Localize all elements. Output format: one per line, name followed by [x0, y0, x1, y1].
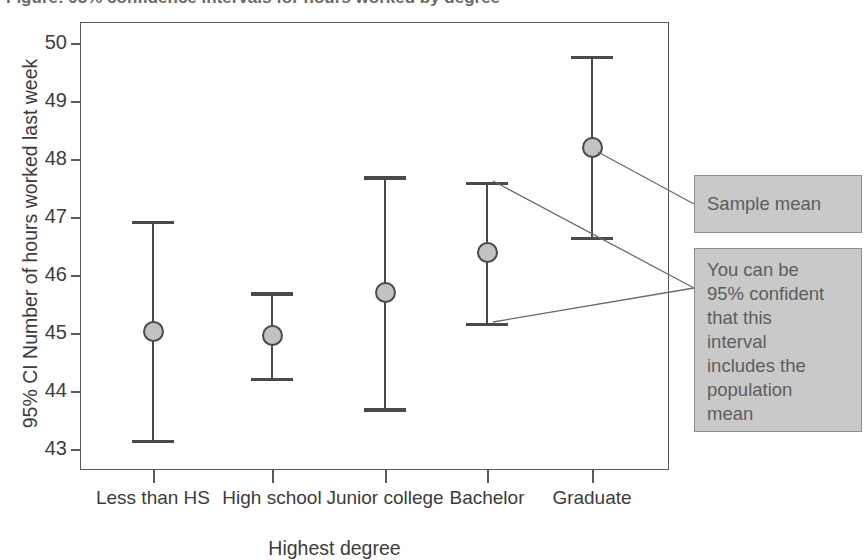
cut-off-caption: Figure: 95% confidence intervals for hou… — [0, 0, 865, 7]
x-tick-4 — [592, 470, 594, 483]
x-tick-1 — [272, 470, 274, 483]
y-axis-title: 95% CI Number of hours worked last week — [19, 9, 42, 479]
x-label-graduate: Graduate — [507, 487, 677, 509]
callout-sample-mean: Sample mean — [694, 175, 862, 233]
figure-root: Figure: 95% confidence intervals for hou… — [0, 0, 865, 560]
x-axis-title: Highest degree — [0, 537, 669, 560]
y-tick-mark — [71, 333, 80, 335]
plot-area — [80, 22, 669, 470]
y-tick-mark — [71, 217, 80, 219]
y-tick-mark — [71, 449, 80, 451]
y-tick-mark — [71, 159, 80, 161]
callout-confidence-interval: You can be 95% confident that this inter… — [694, 248, 862, 432]
error-bar-upper-cap — [571, 56, 613, 59]
y-tick-mark — [71, 43, 80, 45]
error-bar-upper-cap — [132, 221, 174, 224]
y-tick-mark — [71, 275, 80, 277]
mean-marker-bachelor — [477, 242, 498, 263]
y-tick-mark — [71, 101, 80, 103]
x-tick-3 — [487, 470, 489, 483]
error-bar-lower-cap — [364, 408, 406, 411]
x-tick-2 — [385, 470, 387, 483]
x-tick-0 — [153, 470, 155, 483]
error-bar-upper-cap — [251, 292, 293, 295]
error-bar-upper-cap — [466, 182, 508, 185]
error-bar-upper-cap — [364, 176, 406, 179]
error-bar-lower-cap — [466, 323, 508, 326]
error-bar-lower-cap — [251, 378, 293, 381]
error-bar-lower-cap — [571, 237, 613, 240]
error-bar-lower-cap — [132, 440, 174, 443]
y-tick-mark — [71, 391, 80, 393]
